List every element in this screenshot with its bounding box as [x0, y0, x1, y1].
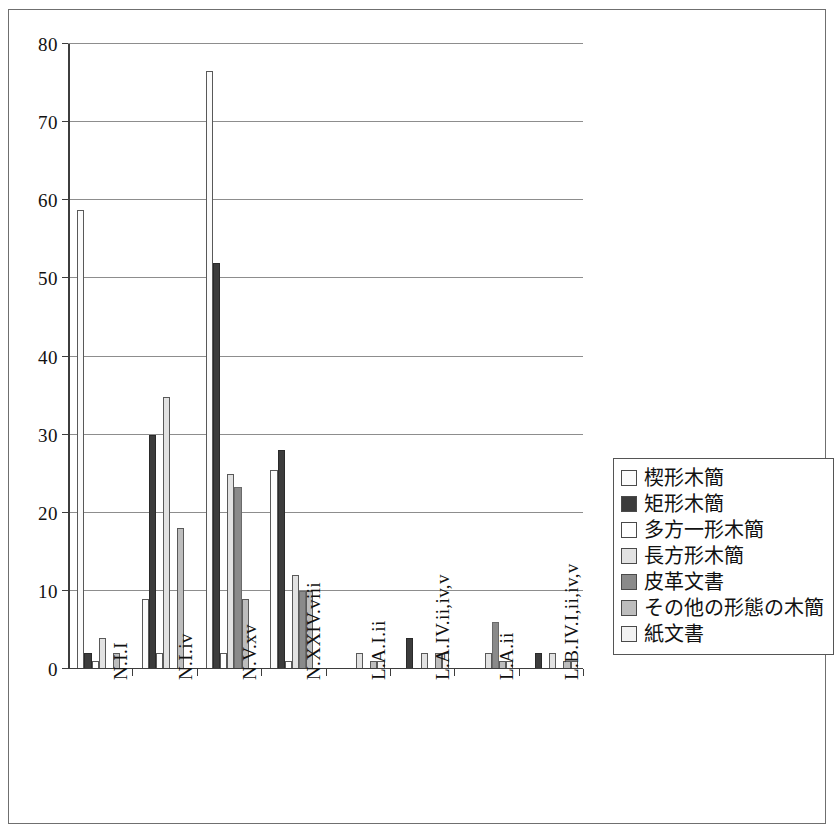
bar: [99, 638, 106, 669]
y-tick-mark-20: [62, 512, 68, 513]
bar: [77, 210, 84, 669]
x-tick-mark: [390, 669, 391, 676]
bar-group: [270, 44, 320, 669]
x-tick-mark: [454, 669, 455, 676]
y-tick-label-20: 20: [14, 503, 58, 522]
legend-item: 矩形木簡: [621, 491, 824, 517]
y-tick-mark-80: [62, 43, 68, 44]
bar: [163, 397, 170, 669]
legend-label: その他の形態の木簡: [644, 598, 824, 618]
chart-page: 01020304050607080 N.I.IN.I.ivN.V.xvN.XXI…: [0, 0, 836, 834]
legend-label: 矩形木簡: [644, 494, 724, 514]
x-tick-mark: [519, 669, 520, 676]
x-axis-label-1: N.I.iv: [175, 633, 197, 680]
legend-swatch-icon: [621, 496, 637, 512]
bar-group: [206, 44, 256, 669]
bar: [213, 263, 220, 669]
legend-label: 紙文書: [644, 624, 704, 644]
legend-item: その他の形態の木簡: [621, 595, 824, 621]
legend-item: 長方形木簡: [621, 543, 824, 569]
y-tick-mark-50: [62, 277, 68, 278]
y-tick-label-0: 0: [14, 660, 58, 679]
y-tick-label-70: 70: [14, 113, 58, 132]
legend-swatch-icon: [621, 626, 637, 642]
y-tick-label-40: 40: [14, 347, 58, 366]
y-axis-line: [68, 44, 70, 669]
legend-item: 多方一形木簡: [621, 517, 824, 543]
y-tick-mark-60: [62, 199, 68, 200]
legend-swatch-icon: [621, 574, 637, 590]
y-tick-label-80: 80: [14, 35, 58, 54]
bar: [149, 435, 156, 669]
x-axis-label-0: N.I.I: [110, 642, 132, 680]
legend-item: 楔形木簡: [621, 465, 824, 491]
x-tick-mark: [326, 669, 327, 676]
legend-swatch-icon: [621, 600, 637, 616]
legend-item: 紙文書: [621, 621, 824, 647]
bar-group: [142, 44, 192, 669]
x-axis-label-6: L.A.ii: [496, 632, 518, 680]
y-tick-mark-40: [62, 356, 68, 357]
legend-label: 皮革文書: [644, 572, 724, 592]
bar-group: [464, 44, 514, 669]
legend-label: 楔形木簡: [644, 468, 724, 488]
plot-area: [68, 44, 583, 669]
bar: [278, 450, 285, 669]
legend-swatch-icon: [621, 470, 637, 486]
bar-group: [77, 44, 127, 669]
legend-label: 多方一形木簡: [644, 520, 764, 540]
bar: [292, 575, 299, 669]
y-tick-label-10: 10: [14, 581, 58, 600]
chart-legend: 楔形木簡矩形木簡多方一形木簡長方形木簡皮革文書その他の形態の木簡紙文書: [613, 458, 834, 655]
legend-label: 長方形木簡: [644, 546, 744, 566]
y-tick-mark-0: [62, 668, 68, 669]
legend-swatch-icon: [621, 548, 637, 564]
y-tick-label-50: 50: [14, 269, 58, 288]
x-axis-label-4: L.A.I.ii: [368, 620, 390, 680]
y-tick-mark-10: [62, 590, 68, 591]
bar-series-container: [68, 44, 583, 669]
x-axis-label-3: N.XXIV.viii: [303, 582, 325, 680]
bar: [406, 638, 413, 669]
x-axis-label-5: L.A.IV.ii,iv,v: [432, 574, 454, 680]
x-axis-label-2: N.V.xv: [239, 624, 261, 680]
x-tick-mark: [261, 669, 262, 676]
x-tick-mark: [583, 669, 584, 676]
y-tick-mark-30: [62, 434, 68, 435]
y-tick-mark-70: [62, 121, 68, 122]
y-tick-label-30: 30: [14, 425, 58, 444]
legend-swatch-icon: [621, 522, 637, 538]
legend-item: 皮革文書: [621, 569, 824, 595]
bar: [270, 470, 277, 669]
bar: [142, 599, 149, 669]
x-axis-label-7: L.B.IV.I,ii,iv,v: [561, 563, 583, 680]
bar-group: [335, 44, 385, 669]
y-tick-label-60: 60: [14, 191, 58, 210]
x-tick-mark: [132, 669, 133, 676]
bar: [227, 474, 234, 669]
bar: [206, 71, 213, 669]
